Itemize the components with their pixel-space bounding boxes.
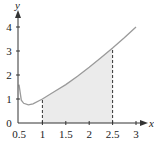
chart: 0.511.522.53 01234 x y — [0, 0, 154, 145]
y-tick-label: 2 — [6, 69, 12, 81]
y-axis-arrow-icon — [15, 10, 21, 18]
y-tick-label: 1 — [6, 93, 12, 105]
x-ticks: 0.511.522.53 — [12, 121, 139, 140]
y-tick-label: 3 — [6, 45, 12, 57]
x-axis-label: x — [148, 117, 154, 129]
y-tick-label: 0 — [6, 117, 12, 129]
shaded-area — [42, 48, 112, 123]
y-axis-label: y — [14, 0, 20, 11]
x-tick-label: 1 — [40, 128, 46, 140]
x-tick-label: 2 — [86, 128, 92, 140]
x-tick-label: 0.5 — [12, 128, 26, 140]
x-tick-label: 2.5 — [106, 128, 120, 140]
x-tick-label: 3 — [133, 128, 139, 140]
y-tick-label: 4 — [6, 21, 12, 33]
x-tick-label: 1.5 — [59, 128, 73, 140]
x-axis-arrow-icon — [140, 120, 148, 126]
